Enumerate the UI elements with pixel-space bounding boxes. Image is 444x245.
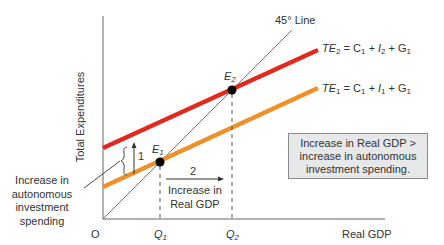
arrow-up-icon	[132, 142, 137, 174]
te2-label: TE2 = C1 + I2 + G1	[322, 42, 411, 55]
y-axis-title: Total Expenditures	[74, 72, 86, 163]
note-box-text: Increase in Real GDP > increase in auton…	[293, 137, 423, 176]
increase-gdp-label: Increase in Real GDP	[168, 184, 222, 211]
q1-label: Q1	[154, 228, 167, 241]
note-box: Increase in Real GDP > increase in auton…	[288, 133, 428, 179]
te1-label: TE1 = C1 + I1 + G1	[322, 82, 411, 95]
e2-label: E2	[224, 70, 236, 83]
x-axis-title: Real GDP	[342, 228, 392, 241]
te1-line	[103, 88, 318, 187]
step-1-label: 1	[138, 150, 144, 163]
origin-label: O	[91, 228, 100, 241]
te2-line	[103, 50, 318, 148]
step-2-label: 2	[190, 165, 196, 178]
e2-point	[228, 86, 237, 95]
e1-label: E1	[152, 143, 164, 156]
e1-point	[156, 158, 165, 167]
q2-label: Q2	[226, 228, 239, 241]
autonomous-investment-label: Increase in autonomous investment spendi…	[2, 174, 82, 228]
line-45-label: 45° Line	[275, 14, 316, 27]
brace-icon	[121, 147, 127, 175]
